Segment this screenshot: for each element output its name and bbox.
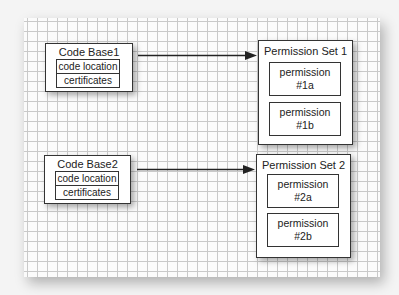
arrow-codebase2-to-permset2 xyxy=(0,0,399,295)
